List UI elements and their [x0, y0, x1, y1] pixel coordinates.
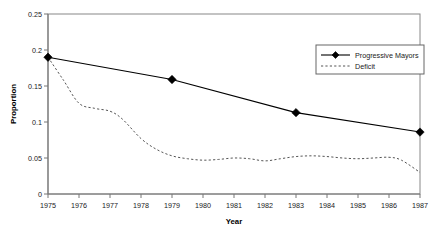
x-tick-label: 1975 [40, 201, 56, 210]
x-tick-label: 1979 [164, 201, 180, 210]
legend-label-deficit: Deficit [355, 62, 375, 71]
x-axis-title: Year [226, 217, 242, 226]
y-axis-title: Proportion [9, 84, 18, 124]
y-tick-label: 0 [38, 190, 42, 199]
y-tick-label: 0.1 [32, 118, 42, 127]
line-chart: 00.050.10.150.20.25 19751976197719781979… [0, 0, 436, 233]
data-point-marker [44, 53, 52, 61]
data-point-marker [292, 108, 300, 116]
legend: Progressive Mayors Deficit [316, 45, 424, 74]
data-point-marker [416, 128, 424, 136]
x-tick-label: 1983 [288, 201, 304, 210]
plot-frame [48, 14, 420, 194]
x-tick-label: 1982 [257, 201, 273, 210]
x-axis-ticks: 1975197619771978197919801981198219831984… [40, 194, 428, 210]
x-tick-label: 1987 [412, 201, 428, 210]
x-tick-label: 1977 [102, 201, 118, 210]
y-tick-label: 0.05 [28, 154, 42, 163]
y-tick-label: 0.25 [28, 10, 42, 19]
x-tick-label: 1985 [350, 201, 366, 210]
x-tick-label: 1986 [381, 201, 397, 210]
x-tick-label: 1976 [71, 201, 87, 210]
x-tick-label: 1980 [195, 201, 211, 210]
data-point-marker [168, 75, 176, 83]
x-tick-label: 1981 [226, 201, 242, 210]
chart-figure: 00.050.10.150.20.25 19751976197719781979… [0, 0, 436, 233]
x-tick-label: 1984 [319, 201, 335, 210]
x-tick-label: 1978 [133, 201, 149, 210]
y-axis-ticks: 00.050.10.150.20.25 [28, 10, 48, 199]
y-tick-label: 0.2 [32, 46, 42, 55]
y-tick-label: 0.15 [28, 82, 42, 91]
legend-label-progressive-mayors: Progressive Mayors [355, 51, 419, 60]
